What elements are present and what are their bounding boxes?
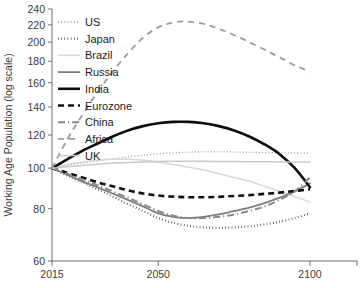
y-axis: 6080100120140160180200220240 (27, 3, 52, 267)
x-tick-label: 2015 (40, 268, 64, 280)
legend-item-brazil[interactable]: Brazil (58, 49, 113, 61)
y-tick-label: 200 (27, 36, 45, 48)
legend-label: China (85, 116, 115, 128)
legend-item-india[interactable]: India (58, 83, 110, 95)
legend-label: Japan (85, 33, 115, 45)
y-tick-label: 100 (27, 162, 45, 174)
y-axis-title: Working Age Population (log scale) (2, 53, 14, 216)
legend: USJapanBrazilRussiaIndiaEurozoneChinaAfr… (58, 16, 132, 162)
legend-item-japan[interactable]: Japan (58, 33, 115, 45)
working-age-population-chart: 6080100120140160180200220240Working Age … (0, 0, 362, 288)
series-line-eurozone (52, 168, 310, 197)
legend-label: India (85, 83, 110, 95)
legend-item-china[interactable]: China (58, 116, 115, 128)
legend-item-us[interactable]: US (58, 16, 100, 28)
chart-container: 6080100120140160180200220240Working Age … (0, 0, 362, 288)
legend-item-russia[interactable]: Russia (58, 66, 120, 78)
legend-item-eurozone[interactable]: Eurozone (58, 100, 132, 112)
y-tick-label: 140 (27, 101, 45, 113)
legend-item-africa[interactable]: Africa (58, 133, 114, 145)
legend-label: UK (85, 150, 101, 162)
y-tick-label: 180 (27, 55, 45, 67)
legend-label: Africa (85, 133, 114, 145)
y-tick-label: 120 (27, 129, 45, 141)
x-axis: 201520502100 (40, 261, 357, 280)
legend-label: US (85, 16, 100, 28)
y-tick-label: 220 (27, 19, 45, 31)
x-tick-label: 2050 (147, 268, 171, 280)
y-tick-label: 240 (27, 3, 45, 15)
x-tick-label: 2100 (298, 268, 322, 280)
legend-label: Brazil (85, 49, 113, 61)
y-tick-label: 160 (27, 77, 45, 89)
y-tick-label: 60 (33, 255, 45, 267)
legend-label: Eurozone (85, 100, 132, 112)
legend-label: Russia (85, 66, 120, 78)
y-tick-label: 80 (33, 203, 45, 215)
